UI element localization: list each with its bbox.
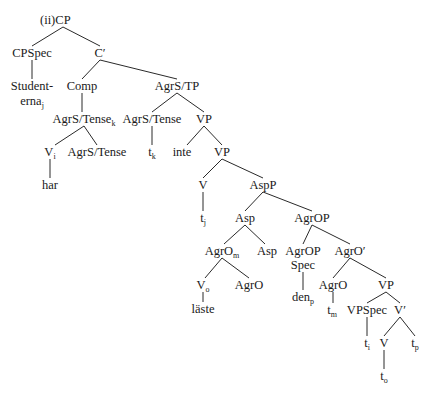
node-label: AgrO <box>319 278 347 292</box>
tree-node-vbar: V′ <box>394 304 406 317</box>
node-label: AgrS/Tense <box>68 145 127 159</box>
tree-branch <box>333 258 350 278</box>
tree-node-v_i: Vi <box>44 146 55 159</box>
node-label: VP <box>214 145 230 159</box>
node-subscript: j <box>204 218 206 227</box>
node-label: V <box>44 145 53 159</box>
tree-node-agrstense_k: AgrS/Tensek <box>53 113 116 126</box>
tree-branch <box>187 126 204 145</box>
tree-node-studenterna1: Student- <box>11 80 53 93</box>
tree-branch <box>384 317 400 336</box>
tree-node-agrstp: AgrS/TP <box>155 80 199 93</box>
node-label: CP <box>55 13 70 27</box>
tree-branch <box>203 159 222 178</box>
tree-branch <box>222 159 263 178</box>
tree-node-comp: Comp <box>67 80 98 93</box>
node-label: AgrS/TP <box>155 79 199 93</box>
tree-branch <box>312 225 350 244</box>
node-label: AgrO <box>235 278 263 292</box>
tree-node-cp: CP <box>55 14 70 27</box>
node-subscript: m <box>331 310 337 319</box>
tree-node-cpspec: CPSpec <box>12 47 52 60</box>
node-label: AgrO <box>205 244 233 258</box>
tree-branch <box>55 126 84 145</box>
node-subscript: k <box>111 119 115 128</box>
tree-node-agropspec1: AgrOP <box>285 245 320 258</box>
tree-node-vp1: VP <box>196 113 212 126</box>
node-label: V <box>196 278 205 292</box>
node-label: VPSpec <box>347 303 387 317</box>
tree-branch <box>100 60 177 79</box>
tree-node-v_1: V <box>198 179 207 192</box>
tree-node-agrstense_2: AgrS/Tense <box>123 113 182 126</box>
tree-branch <box>367 292 386 303</box>
tree-node-studenterna2: ernaj <box>20 95 44 108</box>
node-subscript: m <box>233 251 239 260</box>
node-subscript: k <box>152 152 156 161</box>
node-label: Spec <box>291 258 315 272</box>
node-label: AgrOP <box>285 244 320 258</box>
node-subscript: o <box>206 285 210 294</box>
node-label: Student- <box>11 79 53 93</box>
tree-branch <box>386 292 400 303</box>
tree-node-t_i: ti <box>364 337 370 350</box>
node-label: CPSpec <box>12 46 52 60</box>
node-subscript: p <box>415 343 419 352</box>
node-label: AgrO′ <box>334 244 365 258</box>
tree-branch <box>63 27 100 46</box>
tree-node-t_k: tk <box>148 146 155 159</box>
tree-branch <box>32 27 63 46</box>
tree-node-agro_m: AgrOm <box>205 245 240 258</box>
tree-branch <box>177 93 204 112</box>
node-label: Asp <box>235 211 255 225</box>
node-label: VP <box>378 278 394 292</box>
tree-node-agrop: AgrOP <box>294 212 329 225</box>
tree-node-inte: inte <box>173 146 192 159</box>
node-label: inte <box>173 145 192 159</box>
tree-branch <box>245 225 265 244</box>
tree-node-t_m: tm <box>327 304 337 317</box>
tree-node-agrobar: AgrO′ <box>334 245 365 258</box>
node-label: V <box>379 336 388 350</box>
node-label: har <box>42 178 58 192</box>
tree-node-vp2: VP <box>214 146 230 159</box>
node-label: den <box>292 290 310 304</box>
node-label: läste <box>192 302 215 316</box>
node-label: Comp <box>67 79 98 93</box>
node-subscript: p <box>310 297 314 306</box>
node-label: V′ <box>394 303 406 317</box>
tree-node-agro_1: AgrO <box>235 279 263 292</box>
tree-node-agro_2: AgrO <box>319 279 347 292</box>
tree-branch <box>245 192 263 211</box>
node-label: Asp <box>257 244 277 258</box>
tree-node-har: har <box>42 179 58 192</box>
tree-node-aspp: AspP <box>249 179 276 192</box>
tree-node-den_p: denp <box>292 291 314 304</box>
tree-node-t_j: tj <box>200 212 206 225</box>
tree-branch <box>82 60 100 79</box>
tree-node-agropspec2: Spec <box>291 259 315 272</box>
node-label: erna <box>20 94 42 108</box>
tree-branch <box>205 258 222 278</box>
tree-branch <box>303 225 312 244</box>
tree-node-asp_1: Asp <box>235 212 255 225</box>
node-subscript: o <box>384 376 388 385</box>
node-label: AgrS/Tense <box>53 112 112 126</box>
tree-node-agrstense_3: AgrS/Tense <box>68 146 127 159</box>
tree-branch <box>263 192 312 211</box>
node-label: VP <box>196 112 212 126</box>
tree-branch <box>400 317 415 336</box>
node-subscript: i <box>53 152 55 161</box>
node-label: V <box>198 178 207 192</box>
tree-branch <box>84 126 97 145</box>
tree-branch <box>204 126 222 145</box>
tree-branch <box>152 93 177 112</box>
syntax-tree-diagram: (ii) CPCPSpecC′Student-ernajCompAgrS/TPA… <box>0 0 429 395</box>
node-label: AgrS/Tense <box>123 112 182 126</box>
tree-node-laste: läste <box>192 303 215 316</box>
tree-node-vp3: VP <box>378 279 394 292</box>
node-subscript: i <box>368 343 370 352</box>
tree-node-vpspec: VPSpec <box>347 304 387 317</box>
node-label: C′ <box>94 46 105 60</box>
tree-node-t_p: tp <box>411 337 418 350</box>
